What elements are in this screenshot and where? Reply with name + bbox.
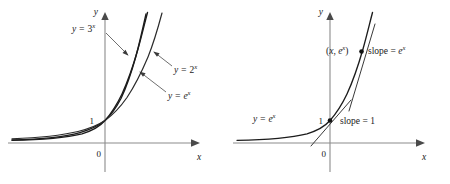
y-axis-arrow-icon [101, 12, 108, 20]
label-e-to-x: y = ex [167, 89, 191, 101]
y-tick-label-one: 1 [90, 116, 95, 126]
tangent-line-at-point [349, 24, 375, 111]
label-3-to-x: y = 3x [71, 22, 95, 34]
left-plot: 1 0 y x y = 3x y = 2x y = ex [0, 0, 225, 184]
label-e-to-x-exponent: x [272, 112, 276, 119]
point-close-paren: ) [345, 46, 348, 57]
label-3-to-x-exponent: x [91, 22, 95, 29]
label-2-to-x-exponent: x [193, 63, 197, 70]
annotation-point-x-ex: (x, ex) [326, 44, 348, 57]
y-tick-label-one: 1 [319, 116, 324, 126]
x-axis-label: x [196, 152, 202, 162]
point-marker-origin [328, 118, 333, 123]
slope-ex-exponent: x [401, 44, 405, 51]
y-axis-label: y [318, 7, 324, 17]
exponential-functions-figure: 1 0 y x y = 3x y = 2x y = ex [0, 0, 450, 184]
x-axis-arrow-icon [191, 139, 200, 147]
annotation-slope-e-to-x: slope = ex [368, 44, 405, 56]
origin-label: 0 [322, 149, 327, 159]
label-e-to-x-lhs: y = [252, 114, 266, 124]
x-axis-label: x [421, 152, 427, 162]
label-e-to-x: y = ex [252, 112, 276, 124]
label-3-to-x-lhs: y = [71, 24, 85, 34]
right-plot: 1 0 y x y = ex (x, ex) slope = ex slope … [225, 0, 450, 184]
origin-label: 0 [97, 149, 102, 159]
label-e-to-x-lhs: y = [167, 91, 181, 101]
label-2-to-x: y = 2x [173, 63, 197, 75]
label-2-to-x-lhs: y = [173, 65, 187, 75]
y-axis-label: y [93, 7, 99, 17]
y-axis-arrow-icon [326, 12, 333, 20]
label-e-to-x-exponent: x [187, 89, 191, 96]
left-panel: 1 0 y x y = 3x y = 2x y = ex [0, 0, 225, 184]
slope-ex-text: slope = [368, 46, 396, 56]
x-axis-arrow-icon [416, 139, 425, 147]
point-marker-tangent [359, 49, 364, 54]
annotation-slope-one: slope = 1 [340, 116, 375, 126]
right-panel: 1 0 y x y = ex (x, ex) slope = ex slope … [225, 0, 450, 184]
